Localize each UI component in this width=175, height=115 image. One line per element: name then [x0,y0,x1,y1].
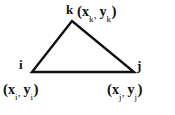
x-variable-k: x [82,4,89,19]
node-label-i: i [19,58,23,71]
node-coordinates-j: (xj,yj) [107,82,142,100]
coordinate-comma-j: , [122,86,126,98]
y-subscript-k: k [107,14,112,24]
y-variable-k: y [100,4,107,19]
x-variable-i: x [8,82,15,97]
y-subscript-j: j [135,92,138,102]
node-label-j: j [137,59,141,72]
y-variable-i: y [24,82,31,97]
triangle-figure: k (xk,yk) i (xi,yi) j (xj,yj) [0,0,175,115]
close-paren-k: ) [111,3,116,19]
y-subscript-i: i [31,92,34,102]
close-paren-i: ) [33,81,38,97]
x-variable-j: x [112,82,119,97]
y-variable-j: y [128,82,135,97]
node-coordinates-k: (xk,yk) [77,4,116,22]
coordinate-comma-k: , [94,8,98,20]
triangle-outline [32,21,134,72]
node-coordinates-i: (xi,yi) [3,82,38,100]
node-label-k: k [66,3,73,16]
coordinate-comma-i: , [18,86,22,98]
close-paren-j: ) [137,81,142,97]
